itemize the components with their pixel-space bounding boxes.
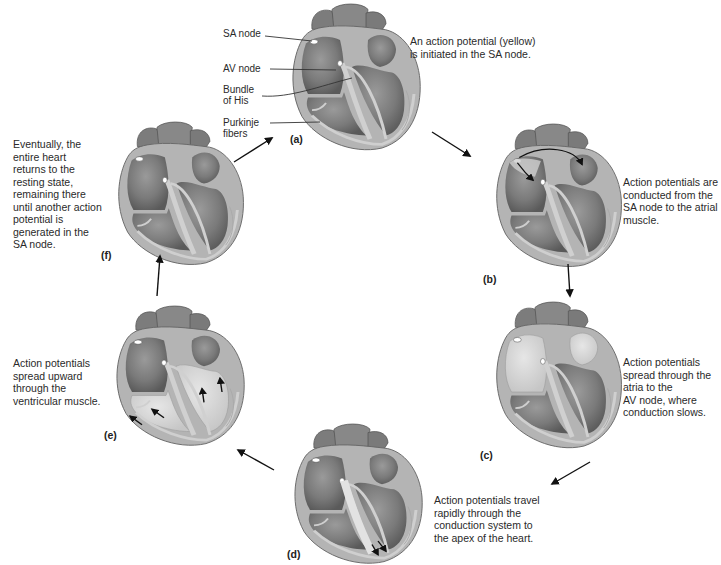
panel-label-b: (b)	[483, 273, 496, 285]
panel-label-a: (a)	[290, 133, 303, 145]
panel-label-f: (f)	[101, 249, 112, 261]
caption-c: Action potentials spread through the atr…	[623, 356, 711, 419]
panel-label-e: (e)	[104, 429, 117, 441]
bundle-of-his-label-line1: Bundle	[223, 84, 254, 95]
heart-f	[119, 122, 244, 264]
caption-f: Eventually, the entire heart returns to …	[13, 138, 102, 251]
caption-a: An action potential (yellow) is initiate…	[410, 35, 535, 60]
heart-b	[497, 124, 622, 266]
purkinje-fibers-label-line2: fibers	[223, 128, 247, 139]
panel-label-d: (d)	[287, 548, 300, 560]
heart-diagram-graphics	[0, 0, 721, 565]
heart-c	[497, 302, 622, 448]
bundle-of-his-label-line2: of His	[223, 95, 249, 106]
caption-e: Action potentials spread upward through …	[13, 357, 101, 407]
caption-d: Action potentials travel rapidly through…	[434, 494, 540, 544]
sa-node-label: SA node	[223, 28, 261, 39]
heart-a	[293, 4, 420, 150]
caption-b: Action potentials are conducted from the…	[623, 176, 718, 226]
panel-label-c: (c)	[480, 449, 493, 461]
av-node-label: AV node	[223, 63, 261, 74]
heart-e	[117, 306, 244, 445]
purkinje-fibers-label-line1: Purkinje	[223, 117, 259, 128]
heart-d	[295, 424, 422, 563]
